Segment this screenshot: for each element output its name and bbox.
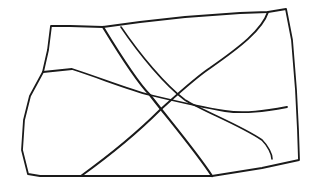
quadrilateral-outline bbox=[22, 9, 299, 176]
sketch-canvas bbox=[0, 0, 312, 192]
diagonal-line-thick bbox=[103, 27, 212, 176]
sketch-drawing bbox=[0, 0, 312, 192]
